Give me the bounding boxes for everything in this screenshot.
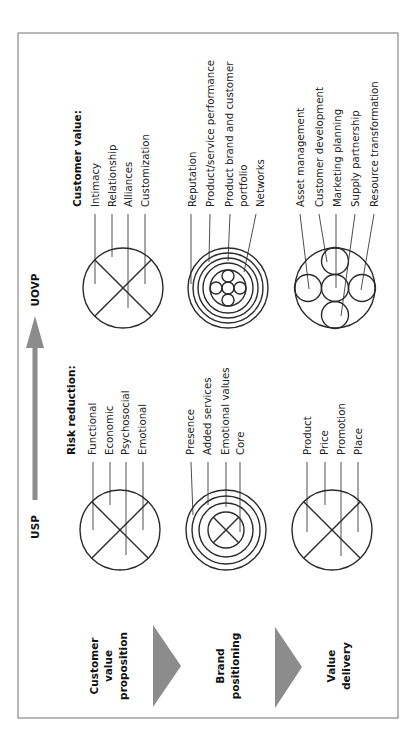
usp-label: USP <box>29 515 41 539</box>
list-item: Promotion <box>336 403 347 455</box>
stage-label-line: value <box>102 650 114 682</box>
list-item: Product <box>302 416 313 455</box>
list-item: Supply partnership <box>350 110 361 207</box>
list-item: portfolio <box>238 164 249 207</box>
list-item: Emotional values <box>220 367 231 455</box>
list-item: Resource transformation <box>369 81 380 207</box>
list-item: Economic <box>104 406 115 455</box>
risk-reduction-heading: Risk reduction: <box>65 365 77 455</box>
stage-label-line: Customer <box>88 637 100 695</box>
stage-label-line: delivery <box>340 642 352 690</box>
list-item: Customer development <box>314 87 325 207</box>
list-item: Reputation <box>187 151 198 207</box>
list-item: Psychosocial <box>120 390 131 455</box>
customer-value-heading: Customer value: <box>71 110 83 207</box>
list-item: Customization <box>140 134 151 207</box>
stage-label-line: positioning <box>229 633 241 699</box>
list-item: Asset management <box>295 108 306 207</box>
usp-to-uovp-diagram: USP UOVP Customer value proposition Bran… <box>0 0 414 730</box>
list-item: Place <box>353 428 364 455</box>
list-item: Product brand and customer <box>224 61 235 207</box>
list-item: Marketing planning <box>332 109 343 207</box>
list-item: Presence <box>185 409 196 455</box>
list-item: Added services <box>202 378 213 456</box>
stage-label-line: Brand <box>214 648 226 683</box>
list-item: Price <box>319 430 330 455</box>
list-item: Product/service performance <box>205 60 216 207</box>
stage-label-line: Value <box>325 650 337 683</box>
list-item: Networks <box>255 159 266 207</box>
uovp-label: UOVP <box>29 273 41 306</box>
list-item: Alliances <box>123 162 134 207</box>
list-item: Emotional <box>137 404 148 455</box>
list-item: Core <box>235 431 246 455</box>
arrow-shaft <box>33 343 38 500</box>
list-item: Functional <box>87 403 98 455</box>
list-item: Intimacy <box>90 163 101 207</box>
list-item: Relationship <box>107 144 118 207</box>
stage-label-line: proposition <box>117 632 129 700</box>
